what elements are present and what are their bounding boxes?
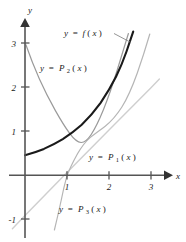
label-p2-arg: x <box>77 63 82 73</box>
label-p1-arg: x <box>126 152 131 162</box>
label-p1-eq: = <box>98 152 103 162</box>
curve-p1 <box>12 79 159 229</box>
label-p1: y = P 1 ( x ) <box>88 152 136 164</box>
curve-f <box>25 32 133 156</box>
y-tick-label-neg-1: -1 <box>9 215 17 225</box>
label-p3-arg: x <box>96 204 101 214</box>
label-p1-close: ) <box>133 152 136 162</box>
y-axis-arrow <box>20 18 30 27</box>
label-f: y = f ( x ) <box>63 28 102 38</box>
label-p3-close: ) <box>103 204 106 214</box>
x-tick-label-2: 2 <box>107 182 112 192</box>
x-axis-arrow <box>164 170 173 180</box>
label-f-eq: = <box>73 28 78 38</box>
label-p2-sub: 2 <box>67 67 70 74</box>
label-p2-eq: = <box>49 63 54 73</box>
curve-layer <box>12 32 159 230</box>
x-tick-label-1: 1 <box>65 182 70 192</box>
label-f-close: ) <box>99 28 102 38</box>
label-p1-fn: P <box>107 152 114 162</box>
label-p3-eq: = <box>68 204 73 214</box>
label-p2-close: ) <box>84 63 87 73</box>
label-p2-lhs: y <box>39 63 44 73</box>
x-tick-label-3: 3 <box>148 182 154 192</box>
y-axis-label: y <box>27 5 32 15</box>
label-p1-open: ( <box>121 152 124 162</box>
y-tick-label-2: 2 <box>12 83 17 93</box>
label-p3-fn: P <box>77 204 84 214</box>
label-p1-lhs: y <box>88 152 93 162</box>
label-p3: y = P 3 ( x ) <box>58 204 106 216</box>
x-axis-label: x <box>175 171 180 181</box>
y-tick-label-1: 1 <box>12 127 17 137</box>
label-p3-lhs: y <box>58 204 63 214</box>
label-p2: y = P 2 ( x ) <box>39 63 87 75</box>
label-f-arg: x <box>92 28 97 38</box>
y-tick-label-3: 3 <box>11 39 17 49</box>
label-f-open: ( <box>87 28 90 38</box>
label-p2-fn: P <box>58 63 65 73</box>
label-f-fn: f <box>83 28 87 38</box>
label-p3-open: ( <box>91 204 94 214</box>
label-p3-sub: 3 <box>86 208 89 215</box>
label-p2-open: ( <box>72 63 75 73</box>
label-f-lhs: y <box>63 28 68 38</box>
figure-svg: 1 2 3 3 2 1 -1 y x y = f ( x ) y <box>0 0 186 242</box>
label-p1-sub: 1 <box>116 156 119 163</box>
taylor-polynomial-figure: 1 2 3 3 2 1 -1 y x y = f ( x ) y <box>0 0 186 242</box>
